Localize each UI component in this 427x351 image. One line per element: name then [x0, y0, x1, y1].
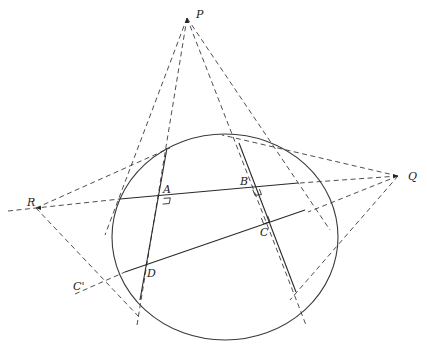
chord-right [239, 143, 296, 292]
label-Q: Q [408, 170, 417, 183]
dashed-tangents-from-P [105, 18, 330, 325]
label-B: B [239, 175, 248, 188]
label-P: P [195, 8, 204, 21]
label-A: A [162, 183, 171, 196]
label-C: C [260, 226, 269, 239]
geometry-diagram: P Q R A B C D C' [0, 0, 427, 351]
dashed-tangents-from-Q [222, 135, 398, 300]
label-R: R [26, 196, 35, 209]
label-D: D [146, 267, 156, 280]
line-CD [125, 210, 305, 272]
dashed-tangents-from-R [8, 148, 170, 318]
line-AB [120, 183, 298, 199]
label-C-prime: C' [73, 280, 84, 293]
right-angle-mark-A [163, 198, 171, 204]
